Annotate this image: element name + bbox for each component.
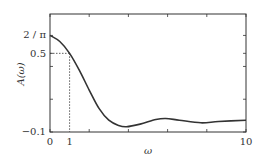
x-axis-title: ω — [144, 145, 152, 156]
x-tick-label-0: 0 — [47, 136, 53, 147]
y-tick-label-0-5: 0.5 — [30, 48, 46, 59]
x-tick-label-10: 10 — [240, 136, 253, 147]
x-tick-label-1: 1 — [66, 136, 72, 147]
plot-frame — [50, 14, 246, 132]
y-tick-label-2-over-pi: 2 / π — [23, 29, 46, 40]
line-chart: 2 / π 0.5 −0.1 0 1 10 ω A(ω) — [0, 0, 258, 160]
y-tick-label-minus-0-1: −0.1 — [22, 126, 46, 137]
y-axis-title: A(ω) — [15, 62, 26, 86]
dotted-guides — [50, 53, 70, 132]
axis-ticks — [50, 14, 246, 132]
series-line-a-omega — [50, 35, 246, 126]
